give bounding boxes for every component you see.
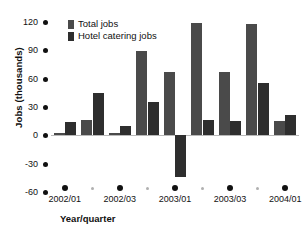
y-axis-tick-dot: [43, 77, 48, 82]
bar-chart-figure: Jobs (thousands) 1209060300-30-60 Total …: [0, 0, 307, 232]
bar-hotel-catering-jobs: [230, 121, 241, 135]
bar-total-jobs: [219, 72, 230, 135]
plot-area: [51, 22, 299, 192]
y-axis-tick-label: 60: [0, 75, 38, 84]
bar-total-jobs: [136, 51, 147, 135]
x-axis-title: Year/quarter: [60, 213, 115, 224]
bar-total-jobs: [109, 133, 120, 136]
y-axis-tick-label: -60: [0, 188, 38, 197]
x-axis-tick-label: 2003/01: [145, 195, 205, 204]
bar-total-jobs: [81, 120, 92, 135]
bar-hotel-catering-jobs: [120, 126, 131, 135]
y-axis-tick-dot: [43, 20, 48, 25]
y-axis-tick-dot: [43, 162, 48, 167]
bar-total-jobs: [246, 24, 257, 135]
x-axis-tick-label: 2002/01: [35, 195, 95, 204]
y-axis-tick-dot: [43, 48, 48, 53]
x-axis-tick-dot-minor: [256, 187, 259, 190]
x-axis-tick-dot-minor: [91, 187, 94, 190]
bar-total-jobs: [164, 72, 175, 135]
x-axis-tick-label: 2003/03: [200, 195, 260, 204]
bar-hotel-catering-jobs: [203, 120, 214, 135]
bar-hotel-catering-jobs: [65, 122, 76, 135]
y-axis-tick-dot: [43, 190, 48, 195]
bar-total-jobs: [191, 23, 202, 135]
y-axis-tick-dot: [43, 133, 48, 138]
x-axis-tick-label: 2004/01: [255, 195, 307, 204]
y-axis-tick-label: 90: [0, 46, 38, 55]
x-axis-tick-label: 2002/03: [90, 195, 150, 204]
bar-total-jobs: [274, 121, 285, 135]
x-axis-tick-dot-minor: [146, 187, 149, 190]
y-axis-tick-dot: [43, 105, 48, 110]
bar-hotel-catering-jobs: [93, 93, 104, 136]
y-axis-tick-label: 0: [0, 131, 38, 140]
y-axis-tick-label: 120: [0, 18, 38, 27]
bar-hotel-catering-jobs: [258, 83, 269, 135]
bar-hotel-catering-jobs: [175, 135, 186, 177]
y-axis-tick-label: 30: [0, 103, 38, 112]
bar-hotel-catering-jobs: [148, 102, 159, 135]
y-axis-tick-label: -30: [0, 160, 38, 169]
x-axis-tick-dot-minor: [201, 187, 204, 190]
bar-total-jobs: [54, 133, 65, 136]
bar-hotel-catering-jobs: [285, 115, 296, 136]
